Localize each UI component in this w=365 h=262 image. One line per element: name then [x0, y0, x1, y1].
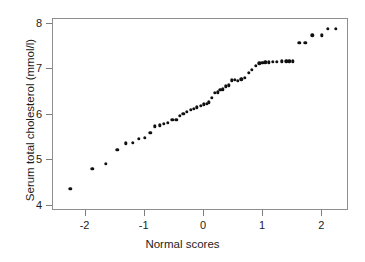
data-point	[304, 41, 307, 44]
x-axis-tick	[262, 210, 263, 216]
data-point	[298, 41, 301, 44]
data-point	[175, 118, 178, 121]
plot-data-area	[52, 18, 348, 210]
data-point	[267, 60, 270, 63]
data-point	[153, 125, 156, 128]
data-point	[320, 34, 323, 37]
x-axis-tick-label: 2	[308, 219, 334, 231]
y-axis-tick-label: 4	[22, 199, 42, 211]
data-point	[149, 131, 152, 134]
data-point	[334, 27, 337, 30]
x-axis-tick	[144, 210, 145, 216]
x-axis-tick	[321, 210, 322, 216]
data-point	[250, 68, 253, 71]
data-point	[158, 124, 161, 127]
data-point	[254, 64, 257, 67]
x-axis-tick-label: 0	[190, 219, 216, 231]
y-axis-tick-label: 6	[22, 108, 42, 120]
data-point	[207, 100, 210, 103]
data-point	[91, 167, 94, 170]
x-axis-tick-label: 1	[249, 219, 275, 231]
data-point	[227, 84, 230, 87]
y-axis-title: Serum total cholesterol (mmol/l)	[24, 10, 36, 230]
y-axis-tick	[46, 159, 52, 160]
x-axis-tick	[85, 210, 86, 216]
data-point	[162, 122, 165, 125]
data-point	[326, 27, 329, 30]
data-point	[115, 148, 118, 151]
y-axis-tick	[46, 205, 52, 206]
data-point	[280, 60, 283, 63]
data-point	[178, 114, 181, 117]
x-axis-title: Normal scores	[0, 238, 365, 250]
data-point	[210, 96, 213, 99]
data-point	[221, 88, 224, 91]
qq-plot-figure: Normal scores Serum total cholesterol (m…	[0, 0, 365, 262]
data-point	[104, 162, 107, 165]
data-point	[170, 118, 173, 121]
x-axis-tick-label: -2	[72, 219, 98, 231]
y-axis-tick	[46, 68, 52, 69]
data-point	[271, 60, 274, 63]
data-point	[291, 60, 294, 63]
data-point	[69, 187, 72, 190]
x-axis-tick	[203, 210, 204, 216]
y-axis-tick	[46, 23, 52, 24]
y-axis-tick	[46, 114, 52, 115]
data-point	[275, 60, 278, 63]
data-point	[247, 71, 250, 74]
data-point	[166, 121, 169, 124]
data-point	[131, 141, 134, 144]
data-point	[137, 137, 140, 140]
data-point	[243, 76, 246, 79]
data-point	[124, 141, 127, 144]
y-axis-tick-label: 5	[22, 153, 42, 165]
y-axis-tick-label: 7	[22, 62, 42, 74]
data-point	[311, 34, 314, 37]
x-axis-tick-label: -1	[131, 219, 157, 231]
data-point	[143, 136, 146, 139]
y-axis-tick-label: 8	[22, 17, 42, 29]
